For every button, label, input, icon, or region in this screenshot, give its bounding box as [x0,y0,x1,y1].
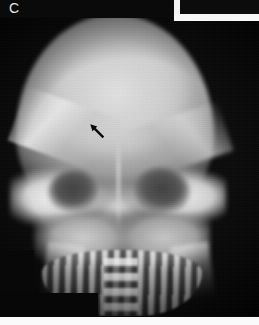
film-edge-strip [0,317,259,325]
film-notch [0,293,98,317]
panel-label: C [9,1,20,15]
lesion-arrow-icon [86,120,108,142]
cervical-column [104,258,138,316]
film-frame-corner-horizontal [174,14,259,21]
radiograph-figure: C [0,0,259,325]
xray-image [0,18,259,316]
film-frame-dark-corner [180,0,259,14]
